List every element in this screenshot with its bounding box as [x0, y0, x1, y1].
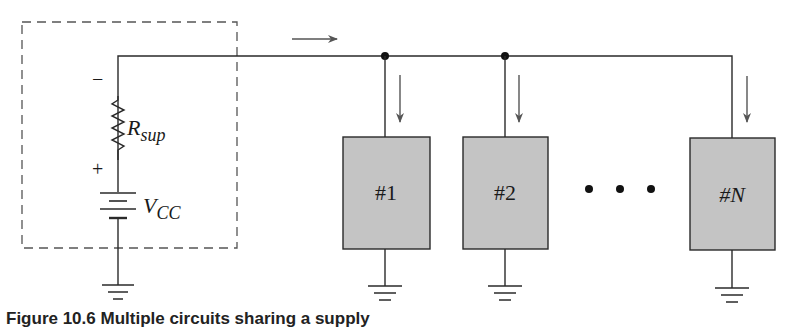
- resistor-label: Rsup: [126, 115, 165, 145]
- battery-vcc-icon: [100, 193, 136, 285]
- ground-icon: [368, 286, 402, 300]
- ellipsis-dots: [585, 185, 655, 193]
- source-label: VCC: [143, 193, 181, 223]
- load-label: #2: [494, 180, 516, 205]
- ground-icon: [102, 285, 134, 299]
- plus-sign: +: [92, 158, 103, 180]
- ground-icon: [488, 286, 522, 300]
- load-label: #1: [375, 180, 397, 205]
- figure-caption: Figure 10.6 Multiple circuits sharing a …: [6, 309, 370, 329]
- load-circuit-1: #1: [343, 56, 430, 300]
- load-circuit-2: #2: [463, 56, 548, 300]
- load-label: #N: [719, 182, 746, 207]
- ground-icon: [715, 288, 749, 302]
- minus-sign: −: [92, 68, 103, 90]
